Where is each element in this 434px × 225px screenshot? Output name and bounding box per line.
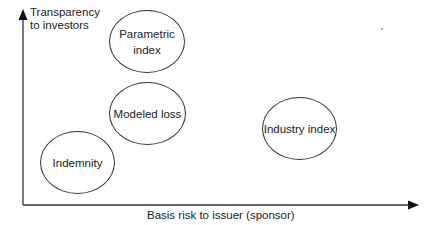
y-axis-arrow-icon (19, 9, 28, 20)
node-modeled-loss: Modeled loss (109, 82, 186, 145)
y-axis-label: Transparency to investors (30, 6, 100, 32)
node-label-line: index (119, 42, 175, 58)
node-label-line: Indemnity (53, 155, 103, 171)
y-axis-label-line-1: Transparency (30, 6, 100, 19)
node-label-line: Parametric (119, 26, 175, 42)
diagram-canvas: Transparency to investors Basis risk to … (0, 0, 434, 225)
node-parametric-index: Parametric index (109, 10, 185, 73)
stray-dot (381, 28, 383, 30)
node-industry-index: Industry index (262, 97, 337, 160)
node-label-line: Industry index (264, 121, 336, 137)
x-axis-label: Basis risk to issuer (sponsor) (147, 208, 295, 222)
node-indemnity: Indemnity (40, 131, 115, 194)
y-axis-label-line-2: to investors (30, 19, 100, 32)
node-label-line: Modeled loss (114, 106, 182, 122)
x-axis-arrow-icon (408, 201, 419, 210)
